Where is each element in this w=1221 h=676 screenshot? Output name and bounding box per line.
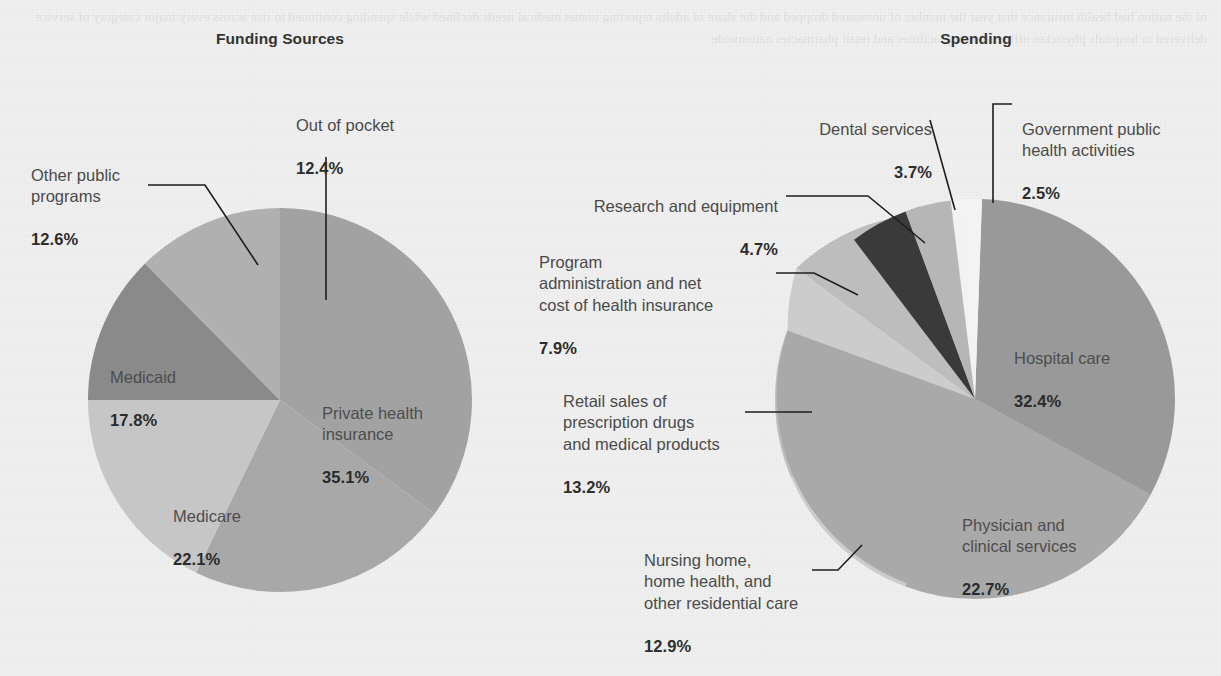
label-hospital-care: Hospital care 32.4% [1014, 326, 1110, 412]
chart-title-spending: Spending [868, 30, 1084, 48]
label-physician-clinical-services-pct: 22.7% [962, 580, 1009, 598]
label-medicaid-pct: 17.8% [110, 411, 157, 429]
label-government-public-health-pct: 2.5% [1022, 184, 1060, 202]
leader-line-dental-services [930, 120, 955, 210]
label-retail-prescription-drugs-name: Retail sales of prescription drugs and m… [563, 392, 720, 453]
label-physician-clinical-services: Physician and clinical services 22.7% [962, 493, 1077, 601]
label-nursing-home-name: Nursing home, home health, and other res… [644, 551, 798, 612]
label-private-health-insurance-name: Private health insurance [322, 404, 423, 444]
label-government-public-health: Government public health activities 2.5% [1022, 97, 1161, 205]
label-nursing-home: Nursing home, home health, and other res… [644, 528, 860, 657]
label-government-public-health-name: Government public health activities [1022, 120, 1161, 160]
label-program-administration-name: Program administration and net cost of h… [539, 253, 713, 314]
label-physician-clinical-services-name: Physician and clinical services [962, 516, 1077, 556]
label-out-of-pocket-name: Out of pocket [296, 116, 394, 134]
label-retail-prescription-drugs-pct: 13.2% [563, 478, 610, 496]
label-hospital-care-name: Hospital care [1014, 349, 1110, 367]
label-program-administration: Program administration and net cost of h… [539, 230, 787, 359]
label-private-health-insurance: Private health insurance 35.1% [322, 381, 423, 489]
label-medicaid-name: Medicaid [110, 368, 176, 386]
figure-stage: Funding Sources Spending Out of pocket 1… [0, 0, 1221, 676]
label-other-public-programs-name: Other public programs [31, 166, 120, 206]
label-other-public-programs-pct: 12.6% [31, 230, 78, 248]
label-out-of-pocket: Out of pocket 12.4% [296, 93, 394, 179]
label-nursing-home-pct: 12.9% [644, 637, 691, 655]
label-dental-services: Dental services 3.7% [700, 97, 932, 183]
label-out-of-pocket-pct: 12.4% [296, 159, 343, 177]
leader-line-government-public-health [993, 104, 1012, 203]
label-medicare-pct: 22.1% [173, 550, 220, 568]
label-medicare: Medicare 22.1% [173, 484, 241, 570]
label-other-public-programs: Other public programs 12.6% [31, 143, 120, 251]
label-research-and-equipment-name: Research and equipment [594, 197, 778, 215]
label-dental-services-pct: 3.7% [894, 163, 932, 181]
label-medicare-name: Medicare [173, 507, 241, 525]
label-program-administration-pct: 7.9% [539, 339, 577, 357]
label-medicaid: Medicaid 17.8% [110, 345, 176, 431]
label-retail-prescription-drugs: Retail sales of prescription drugs and m… [563, 369, 783, 498]
chart-title-funding-sources: Funding Sources [172, 30, 388, 48]
label-private-health-insurance-pct: 35.1% [322, 468, 369, 486]
label-hospital-care-pct: 32.4% [1014, 392, 1061, 410]
label-dental-services-name: Dental services [819, 120, 932, 138]
